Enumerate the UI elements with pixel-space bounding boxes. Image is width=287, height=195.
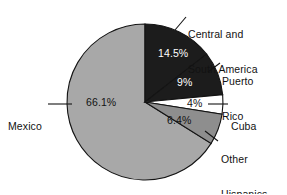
callout-line-1: Central and [188,29,258,41]
callout-label-other-hispanics: Other Hispanics [221,131,267,194]
callout-line-1: Mexico [8,121,42,133]
callout-line-1: Other [221,154,267,166]
callout-line-2: Hispanics [221,189,267,195]
slice-value-cuba: 4% [187,97,202,109]
callout-line-1: Puerto [222,76,254,88]
pie-chart-figure: 14.5% 9% 4% 6.4% 66.1% Central and South… [0,0,287,194]
slice-value-central-south-america: 14.5% [158,47,188,59]
leader-line-central-south-america [175,17,186,30]
callout-label-mexico: Mexico [8,98,42,156]
slice-value-mexico: 66.1% [86,96,116,108]
slice-value-other-hispanics: 6.4% [167,114,191,126]
